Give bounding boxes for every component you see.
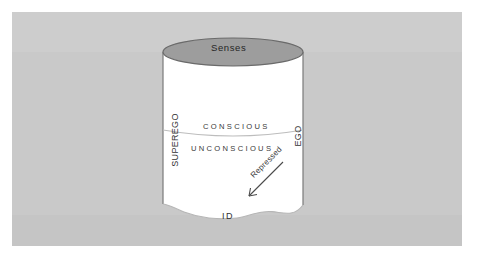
psyche-cylinder-diagram xyxy=(0,0,477,269)
panel-shade-bottom xyxy=(12,215,462,246)
diagram-canvas: Senses CONSCIOUS UNCONSCIOUS ID SUPEREGO… xyxy=(0,0,477,269)
cylinder-body xyxy=(163,52,303,219)
senses-top-ellipse xyxy=(163,38,303,66)
